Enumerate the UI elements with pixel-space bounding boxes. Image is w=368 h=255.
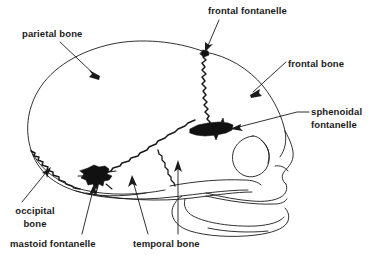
arrowhead-parietal-bone [89, 70, 100, 80]
sphenoidal-fontanelle-shape [190, 118, 233, 140]
arrowhead-frontal-bone [250, 89, 262, 98]
mandible-ramus-line [184, 199, 284, 226]
frontal-to-face-outline [280, 131, 286, 157]
zygomatic-arch [170, 180, 261, 186]
squamous-suture [105, 120, 195, 173]
label-temporal-bone: temporal bone [133, 238, 200, 251]
coronal-suture [202, 53, 211, 128]
mandible-outline [172, 196, 289, 236]
leader-frontal-fontanelle [207, 20, 219, 48]
label-mastoid-fontanelle: mastoid fontanelle [10, 238, 96, 251]
leader-temporal-bone-left [133, 181, 148, 234]
nasal-aperture [275, 166, 288, 171]
leader-mastoid-fontanelle [82, 190, 93, 234]
label-frontal-fontanelle: frontal fontanelle [208, 5, 287, 18]
nasal-profile [282, 131, 293, 184]
leader-occipital-bone [22, 170, 48, 202]
label-occipital-bone: occipital bone [4, 205, 66, 230]
mandible-inner-line [208, 228, 268, 232]
lambdoid-suture [31, 151, 80, 189]
label-frontal-bone: frontal bone [288, 58, 344, 71]
arrowhead-temporal-bone-left [128, 175, 137, 187]
label-sphenoidal-fontanelle: sphenoidal fontanelle [311, 106, 362, 131]
leader-sphenoidal-fontanelle [235, 112, 309, 128]
orbit-inner-line [261, 140, 269, 163]
infant-skull-diagram: parietal bone frontal fontanelle frontal… [0, 0, 368, 255]
frontal-bone-outline [205, 52, 285, 131]
leader-frontal-bone [253, 62, 286, 92]
parieto-temporal-suture [158, 150, 175, 186]
label-parietal-bone: parietal bone [22, 28, 82, 41]
